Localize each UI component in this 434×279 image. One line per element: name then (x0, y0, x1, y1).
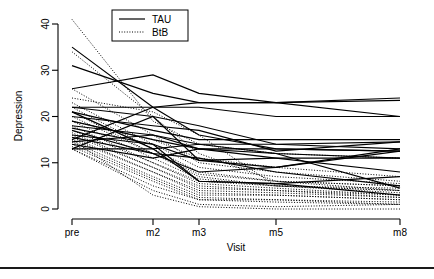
page-divider-rule (0, 267, 434, 269)
x-tick-label: m5 (269, 227, 283, 238)
y-tick-label: 10 (40, 157, 51, 169)
chart-legend: TAU BtB (112, 10, 188, 41)
y-tick-label: 30 (40, 64, 51, 76)
y-axis-title: Depression (13, 91, 24, 142)
y-tick-label: 40 (40, 18, 51, 30)
legend-label-btb: BtB (152, 27, 168, 38)
y-tick-label: 20 (40, 111, 51, 123)
x-tick-label: pre (65, 227, 80, 238)
x-tick-label: m8 (393, 227, 407, 238)
x-tick-label: m2 (146, 227, 160, 238)
x-axis-title: Visit (227, 242, 246, 253)
depression-trajectory-chart: 010203040 prem2m3m5m8 Depression Visit T… (0, 0, 434, 279)
y-tick-label: 0 (40, 206, 51, 212)
legend-label-tau: TAU (152, 14, 171, 25)
line-chart-svg: 010203040 prem2m3m5m8 Depression Visit T… (0, 0, 434, 279)
legend-box (112, 10, 188, 41)
x-tick-label: m3 (192, 227, 206, 238)
